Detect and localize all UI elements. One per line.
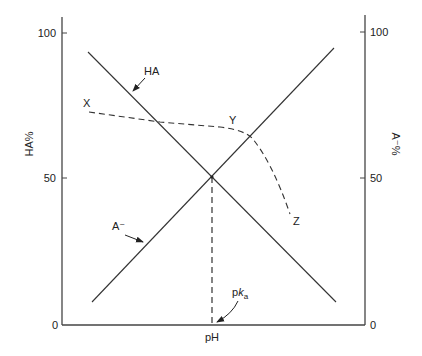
a-minus-arrow-icon: [125, 235, 143, 242]
xyz-dashed-curve: [89, 112, 290, 214]
right-axis-title: A⁻%: [390, 133, 402, 156]
right-tick-label-0: 0: [370, 319, 376, 331]
pka-label: pka: [232, 286, 249, 301]
chart: 100 50 0 100 50 0 HA% A⁻% pH HA A⁻ X Y Z: [0, 0, 422, 356]
point-y-label: Y: [229, 114, 237, 126]
ha-label: HA: [144, 65, 160, 77]
a-minus-label-text: A⁻: [112, 220, 125, 232]
x-axis-title: pH: [205, 331, 219, 343]
point-x-label: X: [83, 97, 91, 109]
a-minus-label: A⁻: [112, 220, 125, 232]
ha-arrow-icon: [133, 78, 145, 91]
left-tick-label-50: 50: [44, 172, 56, 184]
pka-label-sub: a: [244, 292, 249, 301]
right-tick-label-50: 50: [370, 172, 382, 184]
point-z-label: Z: [293, 215, 300, 227]
pka-arrow-icon: [217, 301, 238, 322]
left-axis-title: HA%: [23, 131, 35, 156]
left-tick-label-100: 100: [38, 27, 56, 39]
intersection-point: [210, 175, 213, 178]
right-tick-label-100: 100: [370, 26, 388, 38]
chart-canvas: 100 50 0 100 50 0 HA% A⁻% pH HA A⁻ X Y Z: [0, 0, 422, 356]
left-tick-label-0: 0: [52, 319, 58, 331]
